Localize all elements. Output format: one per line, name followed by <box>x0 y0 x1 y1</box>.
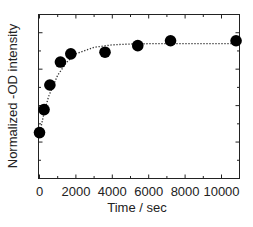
data-point <box>55 56 67 68</box>
x-tick-label: 4000 <box>98 184 127 199</box>
data-point <box>99 46 111 58</box>
x-tick-label: 6000 <box>134 184 163 199</box>
x-tick-label: 0 <box>36 184 43 199</box>
data-point <box>65 48 77 60</box>
x-axis-tick-labels: 0200040006000800010000 <box>36 184 240 199</box>
x-tick-label: 10000 <box>203 184 239 199</box>
data-point <box>165 35 177 47</box>
x-tick-label: 2000 <box>61 184 90 199</box>
data-point <box>38 104 50 116</box>
x-axis-ticks <box>40 15 222 179</box>
y-axis-title: Normalized -OD intensity <box>5 23 20 168</box>
chart: 0200040006000800010000 Time / sec Normal… <box>0 0 253 227</box>
data-point <box>34 127 46 139</box>
data-point <box>44 79 56 91</box>
plot-frame <box>39 15 240 179</box>
data-point <box>230 35 242 47</box>
data-points <box>34 35 242 138</box>
x-tick-label: 8000 <box>171 184 200 199</box>
data-point <box>132 40 144 52</box>
x-axis-title: Time / sec <box>107 200 167 215</box>
